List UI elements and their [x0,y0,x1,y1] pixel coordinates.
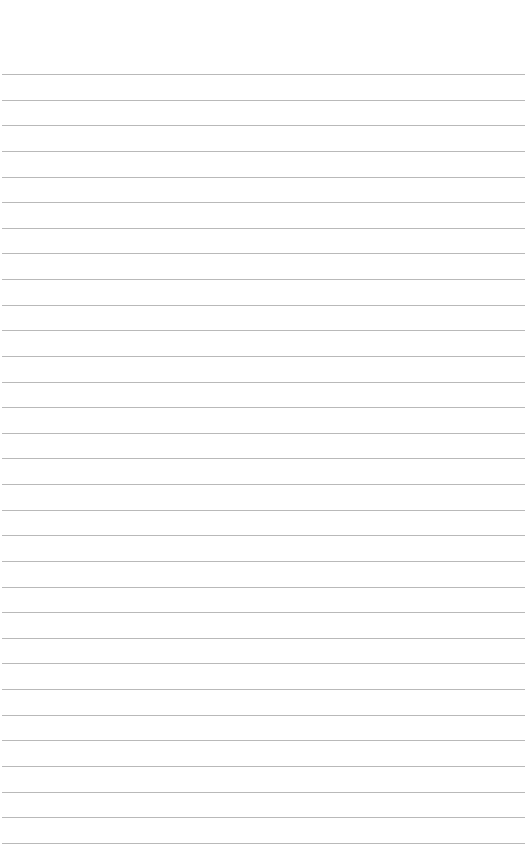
ruled-line [2,663,525,664]
ruled-line [2,817,525,818]
ruled-line [2,587,525,588]
ruled-line [2,202,525,203]
ruled-line [2,100,525,101]
ruled-line [2,407,525,408]
ruled-line [2,356,525,357]
lined-paper-page [0,0,528,864]
ruled-line [2,561,525,562]
ruled-line [2,766,525,767]
ruled-line [2,433,525,434]
ruled-line [2,125,525,126]
ruled-line [2,510,525,511]
ruled-line [2,689,525,690]
ruled-line [2,151,525,152]
ruled-line [2,228,525,229]
ruled-line [2,740,525,741]
ruled-line [2,458,525,459]
ruled-line [2,792,525,793]
ruled-line [2,535,525,536]
ruled-line [2,253,525,254]
ruled-line [2,177,525,178]
ruled-line [2,330,525,331]
ruled-line [2,279,525,280]
ruled-line [2,305,525,306]
ruled-line [2,484,525,485]
ruled-line [2,74,525,75]
ruled-line [2,638,525,639]
ruled-line [2,715,525,716]
ruled-line [2,843,525,844]
ruled-line [2,612,525,613]
ruled-line [2,382,525,383]
